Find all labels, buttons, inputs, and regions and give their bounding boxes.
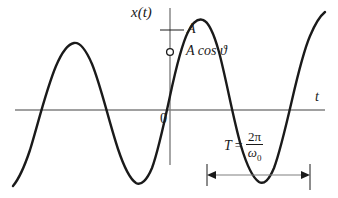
initial-value-marker [167, 49, 174, 56]
plot-canvas [0, 0, 338, 198]
period-symbol: T [224, 139, 232, 153]
omega-subscript: 0 [257, 153, 262, 163]
period-equals-sign: = [235, 139, 243, 153]
period-arrowhead-left [207, 171, 216, 179]
period-numerator: 2π [246, 130, 263, 144]
omega-symbol: ω [248, 145, 257, 160]
period-fraction: 2π ω0 [246, 130, 264, 163]
period-arrowhead-right [301, 171, 310, 179]
origin-label: 0 [160, 112, 167, 126]
time-axis-label: t [315, 90, 319, 104]
initial-value-label: A cos ϑ [186, 44, 227, 58]
amplitude-label: A [187, 22, 196, 36]
period-denominator: ω0 [246, 145, 264, 163]
waveform-curve [13, 12, 325, 186]
vertical-axis-label: x(t) [131, 5, 152, 20]
sinusoidal-signal-figure: x(t) A A cos ϑ 0 t T = 2π ω0 [0, 0, 338, 198]
period-equation: T = 2π ω0 [224, 130, 263, 163]
